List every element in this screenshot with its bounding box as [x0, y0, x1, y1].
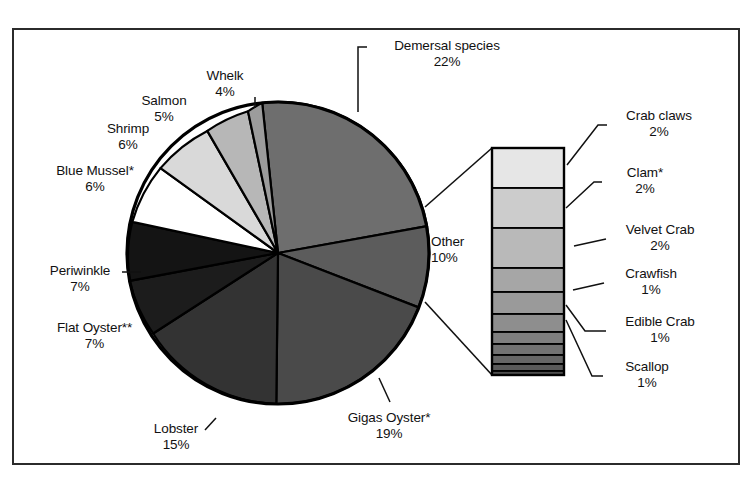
pie-label-lobster: Lobster 15%	[139, 421, 213, 452]
bar-label-edible-crab-value: 1%	[610, 330, 710, 346]
pie-label-blue-mussel-value: 6%	[40, 179, 150, 195]
leader-demersal	[358, 47, 367, 112]
bar-label-scallop: Scallop 1%	[608, 359, 686, 390]
pie-label-flat-oyster: Flat Oyster** 7%	[42, 320, 147, 351]
bar-label-scallop-name: Scallop	[608, 359, 686, 375]
pie-label-flat-oyster-value: 7%	[42, 336, 147, 352]
bar-label-velvet-crab: Velvet Crab 2%	[610, 222, 710, 253]
leader-crawfish	[573, 283, 604, 290]
pie-label-periwinkle-value: 7%	[36, 279, 124, 295]
bar-segment-clam[interactable]	[492, 188, 564, 228]
bar-segment-scallop[interactable]	[492, 314, 564, 332]
bar-label-edible-crab-name: Edible Crab	[610, 314, 710, 330]
breakout-stacked-bar	[492, 148, 564, 375]
bar-label-velvet-crab-name: Velvet Crab	[610, 222, 710, 238]
pie-label-lobster-name: Lobster	[139, 421, 213, 437]
bar-label-velvet-crab-value: 2%	[610, 238, 710, 254]
pie-label-salmon: Salmon 5%	[128, 93, 200, 124]
pie-label-lobster-value: 15%	[139, 437, 213, 453]
pie-label-periwinkle: Periwinkle 7%	[36, 263, 124, 294]
pie-label-shrimp: Shrimp 6%	[92, 121, 164, 152]
pie-label-demersal-species-name: Demersal species	[367, 38, 527, 54]
pie-label-shrimp-name: Shrimp	[92, 121, 164, 137]
leader-velvet-crab	[574, 239, 606, 246]
pie-label-shrimp-value: 6%	[92, 137, 164, 153]
bar-segment-edible-crab[interactable]	[492, 292, 564, 314]
bar-label-crawfish: Crawfish 1%	[609, 266, 693, 297]
pie-label-other-name: Other	[431, 234, 491, 250]
bar-label-clam-value: 2%	[607, 181, 683, 197]
leader-gigas	[379, 378, 390, 402]
pie-label-flat-oyster-name: Flat Oyster**	[42, 320, 147, 336]
bar-segment-minor-3[interactable]	[492, 355, 564, 364]
pie-label-gigas-oyster-value: 19%	[329, 426, 449, 442]
bar-label-crab-claws-name: Crab claws	[611, 108, 707, 124]
bar-label-clam-name: Clam*	[607, 165, 683, 181]
leader-crab-claws	[567, 125, 607, 165]
bar-segment-crawfish[interactable]	[492, 268, 564, 292]
pie-chart	[127, 102, 429, 404]
bar-label-crab-claws-value: 2%	[611, 124, 707, 140]
pie-label-periwinkle-name: Periwinkle	[36, 263, 124, 279]
bar-segment-minor-2[interactable]	[492, 344, 564, 355]
pie-label-other-value: 10%	[431, 250, 491, 266]
pie-label-demersal-species-value: 22%	[367, 54, 527, 70]
pie-label-blue-mussel: Blue Mussel* 6%	[40, 163, 150, 194]
pie-label-whelk: Whelk 4%	[190, 68, 260, 99]
leader-clam	[566, 182, 602, 208]
pie-label-whelk-value: 4%	[190, 84, 260, 100]
leader-edible-crab	[566, 305, 606, 331]
bar-segment-crab-claws[interactable]	[492, 148, 564, 188]
bar-label-clam: Clam* 2%	[607, 165, 683, 196]
bar-label-crab-claws: Crab claws 2%	[611, 108, 707, 139]
bar-segment-minor-1[interactable]	[492, 332, 564, 344]
bar-label-edible-crab: Edible Crab 1%	[610, 314, 710, 345]
bar-segment-velvet-crab[interactable]	[492, 228, 564, 268]
pie-label-salmon-name: Salmon	[128, 93, 200, 109]
pie-label-demersal-species: Demersal species 22%	[367, 38, 527, 69]
pie-label-gigas-oyster: Gigas Oyster* 19%	[329, 410, 449, 441]
pie-label-whelk-name: Whelk	[190, 68, 260, 84]
bar-label-crawfish-value: 1%	[609, 282, 693, 298]
leader-scallop	[566, 320, 603, 376]
pie-label-blue-mussel-name: Blue Mussel*	[40, 163, 150, 179]
pie-label-other: Other 10%	[431, 234, 491, 265]
pie-label-gigas-oyster-name: Gigas Oyster*	[329, 410, 449, 426]
bar-label-crawfish-name: Crawfish	[609, 266, 693, 282]
bar-segment-minor-4[interactable]	[492, 364, 564, 371]
bar-label-scallop-value: 1%	[608, 375, 686, 391]
